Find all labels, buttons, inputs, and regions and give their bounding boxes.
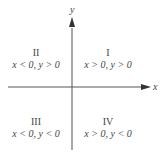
y-axis-label: y [70, 5, 74, 15]
x-axis-arrowhead [141, 84, 151, 90]
quadrant-iv: IV x > 0, y < 0 [76, 117, 140, 139]
quadrant-i: I x > 0, y > 0 [76, 48, 140, 70]
quadrant-iii: III x < 0, y < 0 [4, 117, 68, 139]
quadrant-ii-condition: x < 0, y > 0 [4, 60, 68, 70]
quadrant-iii-numeral: III [4, 117, 68, 127]
y-axis-arrowhead [69, 17, 75, 27]
quadrant-iv-numeral: IV [76, 117, 140, 127]
quadrant-iii-condition: x < 0, y < 0 [4, 129, 68, 139]
quadrant-ii: II x < 0, y > 0 [4, 48, 68, 70]
quadrant-ii-numeral: II [4, 48, 68, 58]
quadrant-i-condition: x > 0, y > 0 [76, 60, 140, 70]
quadrant-iv-condition: x > 0, y < 0 [76, 129, 140, 139]
quadrant-i-numeral: I [76, 48, 140, 58]
x-axis-label: x [153, 82, 157, 92]
